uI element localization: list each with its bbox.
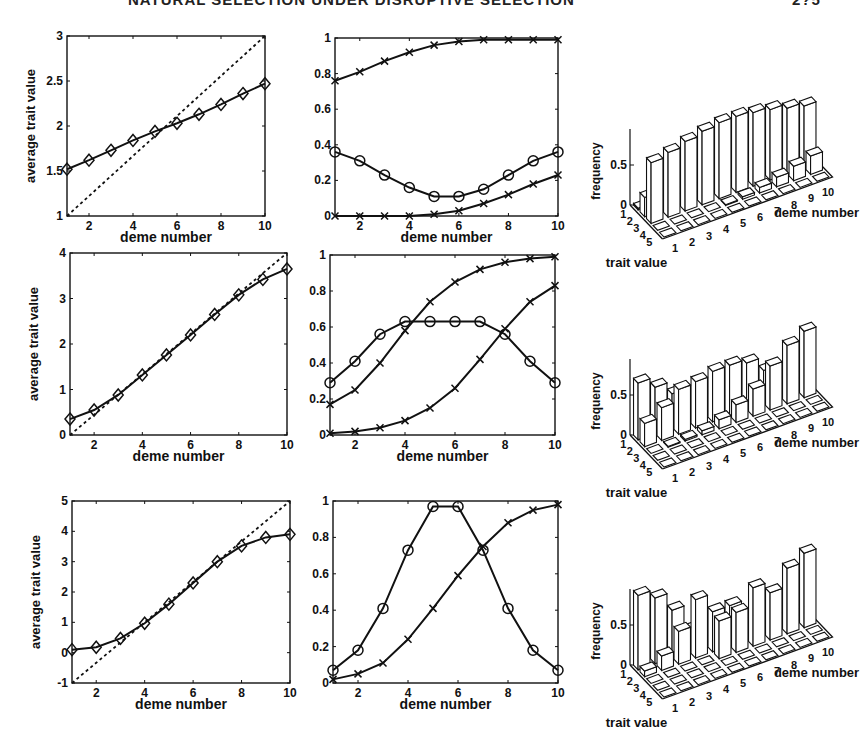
- bar-top: [772, 638, 788, 647]
- x-marker: [455, 572, 462, 579]
- bar-front: [770, 105, 782, 180]
- bar-top: [711, 439, 727, 448]
- bar-side: [749, 108, 754, 186]
- y-tick-label: 0.6: [314, 102, 331, 116]
- deme-tick-label: 3: [706, 690, 712, 702]
- bar: [647, 154, 663, 224]
- bar-top: [762, 191, 778, 200]
- bar-front: [662, 403, 674, 440]
- bar-side: [691, 377, 696, 428]
- deme-tick-label: 6: [757, 211, 763, 223]
- y-tick-label: 0.2: [309, 392, 326, 406]
- z-tick-label: 0.5: [610, 618, 627, 632]
- x-marker: [405, 636, 412, 643]
- x-tick-label: 10: [548, 438, 562, 452]
- bar-front: [679, 385, 691, 434]
- bar-side: [691, 595, 696, 658]
- bar: [749, 380, 765, 416]
- bar: [806, 625, 822, 634]
- trait-tick-label: 5: [646, 466, 652, 478]
- x-axis-label: deme number: [400, 696, 492, 712]
- bar: [681, 132, 697, 211]
- line-chart-row1-freq: 24681000.20.40.60.81deme number: [314, 31, 565, 245]
- trait-tick-label: 2: [627, 215, 633, 227]
- bar-top: [813, 632, 829, 641]
- bar3d-chart-row3-hist: 00.5frequency1234567891012345deme number…: [589, 544, 859, 730]
- series-upper-x: [330, 257, 555, 405]
- bar-side: [800, 548, 805, 627]
- y-tick-label: 1.5: [46, 164, 63, 178]
- figure-panels: 24681011.522.53deme numberaverage trait …: [0, 0, 865, 745]
- y-tick-label: 0.4: [314, 138, 331, 152]
- bar-top: [670, 675, 686, 684]
- deme-tick-label: 5: [740, 677, 746, 689]
- bar: [653, 221, 669, 230]
- deme-tick-label: 4: [723, 453, 730, 465]
- bar-side: [783, 341, 788, 404]
- x-tick-label: 8: [505, 219, 512, 233]
- deme-tick-label: 2: [689, 236, 695, 248]
- deme-tick-label: 3: [706, 460, 712, 472]
- bar: [698, 656, 714, 665]
- bar: [691, 591, 707, 659]
- trait-axis-label: trait value: [606, 485, 667, 500]
- x-tick-label: 8: [218, 219, 225, 233]
- bar-top: [728, 203, 744, 212]
- bar-top: [670, 215, 686, 224]
- bar-side: [725, 360, 730, 415]
- bar-top: [653, 221, 669, 230]
- bar: [711, 669, 727, 678]
- y-tick-label: 2: [59, 337, 66, 351]
- y-tick-label: 0.6: [312, 567, 329, 581]
- bar: [796, 638, 812, 647]
- bar-front: [787, 341, 799, 404]
- bar: [674, 622, 690, 664]
- x-tick-label: 8: [502, 438, 509, 452]
- bar: [704, 433, 720, 442]
- bar: [664, 668, 680, 677]
- series-average-trait: [72, 534, 290, 649]
- deme-tick-label: 10: [822, 646, 834, 658]
- y-tick-label: -1: [57, 676, 68, 690]
- bar: [657, 647, 673, 671]
- bar-top: [745, 657, 761, 666]
- bar-top: [796, 638, 812, 647]
- bar-side: [766, 361, 771, 410]
- series-lower-x: [330, 286, 555, 434]
- bar-top: [670, 445, 686, 454]
- bar-top: [677, 682, 693, 691]
- bar: [660, 228, 676, 237]
- bar-top: [653, 451, 669, 460]
- bar-side: [674, 385, 679, 435]
- bar-side: [708, 607, 713, 652]
- bar-top: [711, 209, 727, 218]
- bar-top: [796, 408, 812, 417]
- bar-side: [732, 112, 737, 193]
- y-tick-label: 0: [59, 428, 66, 442]
- bar: [711, 209, 727, 218]
- x-tick-label: 2: [355, 686, 362, 700]
- bar-top: [789, 632, 805, 641]
- trait-tick-label: 5: [646, 236, 652, 248]
- bar: [779, 645, 795, 654]
- line-chart-row1-mean: 24681011.522.53deme numberaverage trait …: [23, 29, 272, 245]
- bar: [728, 203, 744, 212]
- bar-front: [696, 377, 708, 428]
- bar-top: [694, 676, 710, 685]
- x-tick-label: 2: [93, 686, 100, 700]
- bar-top: [687, 209, 703, 218]
- bar: [806, 147, 822, 175]
- bar-side: [634, 591, 639, 670]
- x-marker: [452, 385, 459, 392]
- bar-top: [813, 402, 829, 411]
- y-tick-label: 0: [322, 676, 329, 690]
- y-tick-label: 5: [61, 494, 68, 508]
- bar: [732, 603, 748, 652]
- bar: [647, 674, 663, 683]
- x-tick-label: 8: [235, 438, 242, 452]
- bar-side: [651, 593, 656, 663]
- bar: [694, 216, 710, 225]
- bar-front: [753, 385, 765, 417]
- bar: [657, 399, 673, 441]
- x-tick-label: 10: [280, 438, 294, 452]
